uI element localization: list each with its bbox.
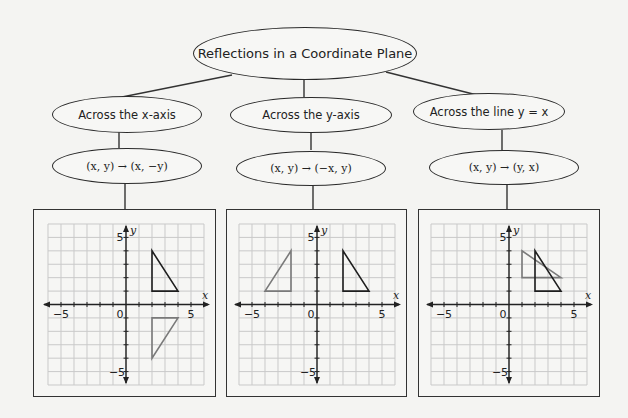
branch-y-axis-node: Across the y-axis xyxy=(230,97,392,133)
arrow-up-icon xyxy=(123,225,129,232)
arrow-up-icon xyxy=(314,225,320,232)
branch-label: Across the x-axis xyxy=(78,108,176,122)
arrow-right-icon xyxy=(203,302,210,308)
arrow-up-icon xyxy=(506,225,512,232)
tick-label-origin: 0 xyxy=(500,308,507,321)
rule-text: (x, y) → (x, −y) xyxy=(86,160,167,173)
axis-label-y: y xyxy=(512,224,520,237)
reflections-diagram: Reflections in a Coordinate Plane Across… xyxy=(0,0,628,418)
arrow-right-icon xyxy=(586,302,593,308)
tick-label-origin: 0 xyxy=(308,308,315,321)
branch-label: Across the y-axis xyxy=(262,108,359,122)
coordinate-plane: −5505−5xy xyxy=(227,210,408,398)
branch-label: Across the line y = x xyxy=(430,105,549,119)
coordinate-plane: −5505−5xy xyxy=(34,210,217,398)
arrow-right-icon xyxy=(394,302,401,308)
tick-label-y-pos: 5 xyxy=(500,231,507,244)
arrow-left-icon xyxy=(43,302,50,308)
rule-x-axis-node: (x, y) → (x, −y) xyxy=(52,148,202,184)
rule-y-equals-x-node: (x, y) → (y, x) xyxy=(429,150,579,185)
arrow-left-icon xyxy=(234,302,241,308)
rule-text: (x, y) → (−x, y) xyxy=(270,162,351,175)
rule-text: (x, y) → (y, x) xyxy=(469,161,540,174)
tick-label-x-pos: 5 xyxy=(188,308,195,321)
axis-label-x: x xyxy=(202,289,209,302)
coordinate-plane: −5505−5xy xyxy=(419,210,601,398)
tick-label-y-neg: −5 xyxy=(300,366,316,379)
diagram-title: Reflections in a Coordinate Plane xyxy=(198,46,413,61)
axis-label-y: y xyxy=(320,224,328,237)
graph-frame-y-axis: −5505−5xy xyxy=(226,209,407,397)
tick-label-y-pos: 5 xyxy=(117,231,124,244)
axis-label-x: x xyxy=(585,289,592,302)
title-node: Reflections in a Coordinate Plane xyxy=(193,27,417,80)
tick-label-x-neg: −5 xyxy=(436,308,452,321)
branch-y-equals-x-node: Across the line y = x xyxy=(413,93,565,130)
tick-label-y-pos: 5 xyxy=(308,231,315,244)
arrow-left-icon xyxy=(426,302,433,308)
rule-y-axis-node: (x, y) → (−x, y) xyxy=(236,151,386,186)
tick-label-origin: 0 xyxy=(117,308,124,321)
tick-label-x-neg: −5 xyxy=(53,308,69,321)
axis-label-x: x xyxy=(393,289,400,302)
tick-label-x-pos: 5 xyxy=(571,308,578,321)
branch-x-axis-node: Across the x-axis xyxy=(52,96,202,133)
tick-label-y-neg: −5 xyxy=(492,366,508,379)
tick-label-y-neg: −5 xyxy=(109,366,125,379)
axis-label-y: y xyxy=(129,224,137,237)
tick-label-x-neg: −5 xyxy=(244,308,260,321)
tick-label-x-pos: 5 xyxy=(379,308,386,321)
graph-frame-x-axis: −5505−5xy xyxy=(33,209,216,397)
graph-frame-y-equals-x: −5505−5xy xyxy=(418,209,600,397)
